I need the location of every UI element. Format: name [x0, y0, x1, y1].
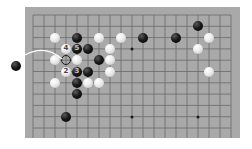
- white-stone[interactable]: [204, 67, 214, 77]
- white-stone[interactable]: 4: [61, 44, 71, 54]
- star-point: [131, 115, 134, 118]
- star-point: [131, 47, 134, 50]
- black-stone[interactable]: [61, 112, 71, 122]
- white-stone[interactable]: [105, 67, 115, 77]
- white-stone[interactable]: [50, 55, 60, 65]
- marked-empty-point[interactable]: [61, 55, 71, 65]
- white-stone[interactable]: [83, 78, 93, 88]
- black-stone[interactable]: 3: [72, 67, 82, 77]
- black-stone[interactable]: [94, 55, 104, 65]
- star-point: [197, 115, 200, 118]
- white-stone[interactable]: [72, 55, 82, 65]
- white-stone[interactable]: [193, 44, 203, 54]
- go-board[interactable]: 4523: [25, 7, 240, 138]
- black-stone[interactable]: [83, 44, 93, 54]
- black-stone[interactable]: 5: [72, 44, 82, 54]
- white-stone[interactable]: [94, 78, 104, 88]
- white-stone[interactable]: [50, 78, 60, 88]
- white-stone[interactable]: [105, 55, 115, 65]
- white-stone[interactable]: [105, 44, 115, 54]
- black-stone[interactable]: [72, 78, 82, 88]
- white-stone[interactable]: 2: [61, 67, 71, 77]
- offboard-black-stone[interactable]: [11, 61, 21, 71]
- black-stone[interactable]: [193, 21, 203, 31]
- black-stone[interactable]: [138, 33, 148, 43]
- move-number: 2: [64, 68, 69, 75]
- move-number: 4: [64, 45, 69, 52]
- white-stone[interactable]: [116, 33, 126, 43]
- move-number: 3: [75, 68, 80, 75]
- black-stone[interactable]: [83, 67, 93, 77]
- move-number: 5: [75, 45, 80, 52]
- white-stone[interactable]: [204, 33, 214, 43]
- white-stone[interactable]: [94, 33, 104, 43]
- black-stone[interactable]: [72, 33, 82, 43]
- black-stone[interactable]: [171, 33, 181, 43]
- white-stone[interactable]: [50, 33, 60, 43]
- black-stone[interactable]: [72, 89, 82, 99]
